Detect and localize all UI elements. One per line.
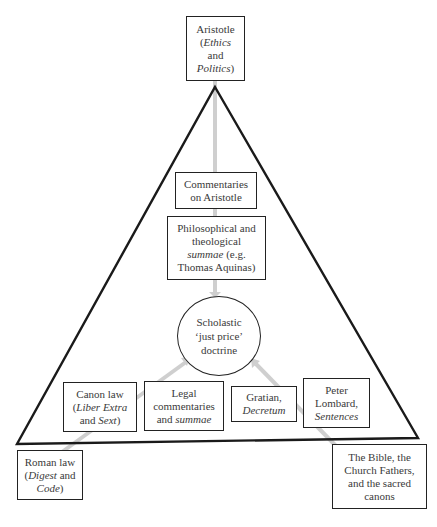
- roman-law-line2: (Digest and: [24, 469, 75, 482]
- aristotle-work-line1: (Ethics: [200, 36, 231, 49]
- bible-line4: canons: [364, 490, 395, 503]
- code-title: Code: [37, 482, 60, 494]
- sext-title: Sext: [98, 414, 116, 426]
- paren-close: ): [117, 414, 121, 426]
- lombard-line1: Peter: [325, 384, 348, 397]
- canon-law-box: Canon law (Liber Extra and Sext): [63, 382, 137, 432]
- philosophical-line4: Thomas Aquinas): [178, 261, 256, 274]
- philosophical-line1: Philosophical and: [177, 222, 256, 235]
- bible-line1: The Bible, the: [348, 451, 411, 464]
- center-line1: Scholastic: [196, 315, 241, 329]
- center-line2: ‘just price’: [195, 329, 243, 343]
- aristotle-work-line3: Politics): [197, 62, 234, 75]
- legal-commentaries-box: Legal commentaries and summae: [144, 381, 224, 431]
- aristotle-box: Aristotle (Ethics and Politics): [186, 16, 245, 81]
- canon-law-line3: and Sext): [80, 414, 121, 427]
- philosophical-line2: theological: [192, 235, 241, 248]
- legal-line3: and summae: [157, 413, 212, 426]
- roman-law-box: Roman law (Digest and Code): [17, 450, 83, 500]
- gratian-box: Gratian, Decretum: [231, 386, 297, 422]
- peter-lombard-box: Peter Lombard, Sentences: [303, 378, 370, 428]
- ethics-title: Ethics: [204, 36, 232, 48]
- politics-title: Politics: [197, 62, 231, 74]
- aristotle-label: Aristotle: [196, 23, 235, 36]
- paren-close: ): [230, 62, 234, 74]
- legal-line1: Legal: [171, 387, 196, 400]
- commentaries-box: Commentaries on Aristotle: [175, 172, 257, 209]
- summae-italic: summae: [175, 413, 211, 425]
- legal-line2: commentaries: [153, 400, 215, 413]
- philosophical-line3: summae (e.g.: [187, 248, 245, 261]
- bible-church-fathers-box: The Bible, the Church Fathers, and the s…: [332, 444, 427, 509]
- liber-extra-title: Liber Extra: [76, 401, 127, 413]
- gratian-line1: Gratian,: [246, 391, 282, 404]
- canon-law-line2: (Liber Extra: [73, 401, 128, 414]
- paren-close: ): [60, 482, 64, 494]
- canon-law-line1: Canon law: [76, 388, 123, 401]
- just-price-doctrine-circle: Scholastic ‘just price’ doctrine: [177, 296, 261, 376]
- eg-text: (e.g.: [223, 248, 245, 260]
- sentences-title: Sentences: [315, 410, 358, 423]
- digest-title: Digest: [28, 469, 57, 481]
- commentaries-line2: on Aristotle: [190, 191, 242, 204]
- bible-line3: and the sacred: [348, 477, 411, 490]
- and-text: and: [157, 413, 176, 425]
- and-text: and: [57, 469, 76, 481]
- summae-italic: summae: [187, 248, 223, 260]
- bible-line2: Church Fathers,: [344, 464, 414, 477]
- lombard-line2: Lombard,: [315, 397, 358, 410]
- commentaries-line1: Commentaries: [184, 178, 248, 191]
- aristotle-and: and: [208, 49, 224, 62]
- roman-law-line3: Code): [37, 482, 64, 495]
- and-text: and: [80, 414, 99, 426]
- decretum-title: Decretum: [243, 404, 286, 417]
- philosophical-summae-box: Philosophical and theological summae (e.…: [167, 216, 266, 280]
- roman-law-line1: Roman law: [25, 456, 75, 469]
- center-line3: doctrine: [201, 343, 237, 357]
